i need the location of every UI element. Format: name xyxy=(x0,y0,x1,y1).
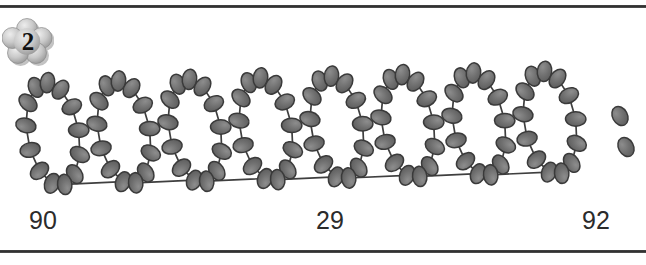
bead xyxy=(351,137,376,159)
bead xyxy=(232,136,255,155)
bead xyxy=(565,112,586,127)
bead xyxy=(209,140,234,162)
number-right: 92 xyxy=(582,208,610,233)
bead xyxy=(352,116,373,131)
bead xyxy=(139,121,160,136)
bead xyxy=(201,93,226,115)
bead xyxy=(303,134,326,153)
bead xyxy=(494,113,515,128)
bead xyxy=(445,131,468,150)
bead xyxy=(281,118,302,133)
bead xyxy=(272,91,297,113)
bead xyxy=(374,133,397,152)
bead xyxy=(14,116,37,135)
number-mid: 29 xyxy=(316,208,344,233)
loop-group xyxy=(14,60,589,195)
bead xyxy=(343,89,368,111)
bead xyxy=(210,120,231,135)
colon-bead xyxy=(615,135,638,160)
bead xyxy=(564,132,589,154)
bead xyxy=(68,123,89,138)
bead xyxy=(280,139,305,161)
bead xyxy=(414,88,439,110)
bead xyxy=(161,137,184,156)
worksheet-page: 2 90 29 92 xyxy=(0,0,646,265)
colon-bead xyxy=(609,104,632,129)
bead xyxy=(90,139,113,158)
bead xyxy=(485,86,510,108)
bottom-divider xyxy=(0,250,646,253)
top-divider xyxy=(0,5,646,8)
bead xyxy=(67,143,92,165)
bead xyxy=(19,141,42,160)
bead xyxy=(138,142,163,164)
bead xyxy=(423,115,444,130)
colon-mark xyxy=(609,104,638,160)
beaded-loop-chain xyxy=(0,50,646,198)
bead xyxy=(556,85,581,107)
bead xyxy=(59,96,84,118)
bead xyxy=(493,134,518,156)
bead xyxy=(130,94,155,116)
bead xyxy=(422,135,447,157)
number-left: 90 xyxy=(29,208,57,233)
bead xyxy=(516,129,539,148)
